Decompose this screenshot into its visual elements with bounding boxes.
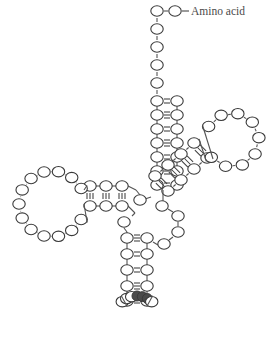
anticodon-arm-group	[116, 232, 158, 307]
nucleotide	[121, 281, 133, 291]
nucleotide	[215, 110, 227, 120]
d-arm-group	[13, 166, 136, 241]
nucleotide	[66, 172, 78, 182]
nucleotide	[52, 166, 64, 176]
backbone-segment	[128, 206, 135, 213]
nucleotide	[219, 161, 231, 171]
nucleotide	[151, 96, 163, 106]
amino-acid-label: Amino acid	[191, 5, 245, 17]
nucleotide	[236, 160, 248, 170]
nucleotide	[25, 224, 37, 234]
backbone-segment	[124, 228, 127, 232]
nucleotide	[171, 124, 183, 134]
acceptor-single-strand-nodes	[151, 6, 181, 88]
backbone-segment	[128, 186, 136, 190]
nucleotide	[151, 110, 163, 120]
nucleotide	[100, 201, 112, 211]
nucleotide	[151, 78, 163, 88]
nucleotide	[116, 201, 128, 211]
nucleotide	[149, 171, 161, 181]
trna-diagram-canvas: Amino acid	[0, 0, 277, 349]
backbone-segment	[132, 213, 135, 216]
nucleotide	[141, 265, 153, 275]
nucleotide	[156, 201, 168, 211]
backbone-segment	[257, 144, 258, 147]
nucleotide	[172, 211, 184, 221]
nucleotide	[175, 175, 187, 185]
nucleotide	[172, 227, 184, 237]
backbone-segment	[199, 163, 201, 165]
nucleotide	[249, 149, 261, 159]
nucleotide	[158, 239, 170, 249]
nucleotide	[151, 60, 163, 70]
nucleotide	[151, 138, 163, 148]
backbone-segment	[169, 237, 173, 240]
hbond	[195, 150, 201, 156]
nucleotide	[171, 96, 183, 106]
anticodon-loop	[116, 291, 158, 307]
nucleotide	[141, 249, 153, 259]
nucleotide	[151, 42, 163, 52]
nucleotide	[121, 233, 133, 243]
d-stem-bonds	[87, 193, 125, 199]
hbond	[185, 159, 191, 165]
nucleotide	[38, 167, 50, 177]
t-loop	[199, 108, 265, 171]
nucleotide	[116, 181, 128, 191]
backbone-segment	[136, 190, 140, 195]
nucleotide	[121, 265, 133, 275]
acceptor-base-pair-bonds	[164, 99, 170, 187]
nucleotide	[169, 6, 181, 16]
nucleotide	[38, 231, 50, 241]
hbond	[187, 156, 193, 162]
nucleotide	[188, 164, 200, 174]
nucleotide	[134, 195, 146, 205]
backbone-segment	[214, 120, 216, 122]
nucleotide	[171, 138, 183, 148]
nucleotide	[141, 233, 153, 243]
backbone-segment	[186, 148, 188, 150]
nucleotide	[151, 24, 163, 34]
nucleotide	[52, 231, 64, 241]
backbone-segment	[255, 129, 256, 132]
hbond	[182, 161, 188, 167]
d-loop	[13, 166, 88, 241]
trna-cloverleaf-figure: Amino acid	[0, 0, 277, 349]
nucleotide	[100, 181, 112, 191]
backbone-segment	[244, 117, 246, 118]
nucleotide	[141, 281, 153, 291]
nucleotide	[246, 117, 258, 127]
nucleotide	[171, 110, 183, 120]
nucleotide	[162, 186, 174, 196]
nucleotide	[121, 249, 133, 259]
nucleotide	[25, 173, 37, 183]
nucleotide	[16, 213, 28, 223]
nucleotide	[118, 217, 130, 227]
backbone-segment	[217, 161, 219, 162]
backbone-segment	[186, 174, 188, 176]
nucleotide	[66, 225, 78, 235]
t-arm-group	[149, 108, 265, 196]
nucleotide	[13, 199, 25, 209]
nucleotide	[16, 185, 28, 195]
nucleotide	[151, 152, 163, 162]
backbone-segment	[248, 159, 250, 161]
nucleotide	[162, 160, 174, 170]
nucleotide	[232, 108, 244, 118]
nucleotide	[253, 132, 265, 142]
nucleotide	[151, 6, 163, 16]
nucleotide	[188, 138, 200, 148]
nucleotide	[84, 201, 96, 211]
backbone-segment	[168, 209, 173, 212]
backbone-segment	[153, 242, 158, 245]
nucleotide	[175, 149, 187, 159]
nucleotide	[151, 124, 163, 134]
